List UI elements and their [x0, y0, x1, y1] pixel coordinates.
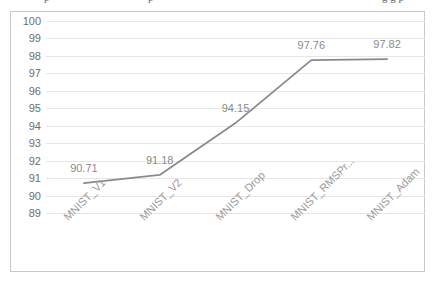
- clipped-text-fragment-3: g g p: [382, 0, 404, 3]
- clipped-text-fragment-2: p: [148, 0, 154, 3]
- y-axis-tick-label: 90: [29, 190, 41, 201]
- y-axis-tick-label: 92: [29, 155, 41, 166]
- clipped-document-text: p p g g p: [0, 0, 438, 3]
- y-axis-tick-label: 93: [29, 138, 41, 149]
- clipped-text-fragment-1: p: [44, 0, 50, 3]
- data-point-label: 97.82: [373, 39, 401, 50]
- data-point-label: 97.76: [298, 40, 326, 51]
- y-axis-tick-label: 94: [29, 120, 41, 131]
- data-point-label: 94.15: [222, 103, 250, 114]
- y-axis-tick-label: 96: [29, 85, 41, 96]
- y-axis-tick-label: 100: [23, 16, 41, 27]
- x-axis-category-labels: MNIST_V1MNIST_V2MNIST_DropMNIST_RMSPr...…: [46, 215, 425, 273]
- data-point-label: 91.18: [146, 155, 174, 166]
- y-axis-tick-label: 98: [29, 50, 41, 61]
- y-axis-tick-label: 99: [29, 33, 41, 44]
- data-point-label: 90.71: [70, 163, 98, 174]
- y-axis-tick-label: 97: [29, 68, 41, 79]
- y-axis-tick-label: 91: [29, 173, 41, 184]
- y-axis-tick-label: 89: [29, 208, 41, 219]
- y-axis-tick-label: 95: [29, 103, 41, 114]
- chart-container: 1009998979695949392919089 90.7191.1894.1…: [10, 11, 425, 272]
